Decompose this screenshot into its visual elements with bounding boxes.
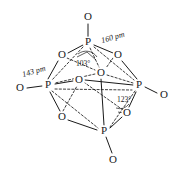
bond-dashed-p-top-to-o-center-back <box>90 48 99 67</box>
label-angle-123: 123° <box>117 95 131 104</box>
bond-o-center-back-to-p-bottom <box>101 79 104 125</box>
measurement-labels-group: 160 pm 143 pm 103° 123° <box>21 30 131 104</box>
bond-p-right-to-terminal-o <box>145 87 157 93</box>
oxygen-bridge-lower-right: O <box>123 106 131 118</box>
bond-o-lower-left-to-p-bottom <box>68 120 97 130</box>
label-bond-length-143: 143 pm <box>21 64 47 79</box>
oxygen-terminal-top: O <box>84 10 92 22</box>
oxygen-bridge-center-back: O <box>97 66 105 78</box>
oxygen-bridge-upper-right: O <box>114 48 122 60</box>
bond-o-center-left-to-p-right <box>85 80 133 85</box>
oxygen-terminal-bottom: O <box>109 153 117 165</box>
figure-container: P P P P O O O O O O O O O O 160 pm 143 p… <box>0 0 180 179</box>
bond-o-upper-left-to-p-left <box>48 61 58 79</box>
bond-dashed-o-center-back-to-p-right <box>107 75 133 83</box>
oxygen-terminal-left: O <box>16 81 24 93</box>
phosphorus-right: P <box>136 78 142 90</box>
bond-dashed-o-upper-right-to-o-center-back <box>106 58 113 68</box>
bond-p-top-to-o-upper-right <box>94 45 113 53</box>
bond-p-left-to-o-lower-left <box>50 92 60 111</box>
oxygen-bridge-lower-left: O <box>58 110 66 122</box>
label-angle-103: 103° <box>76 59 90 68</box>
label-bond-length-160: 160 pm <box>100 30 126 45</box>
phosphorus-bottom: P <box>101 124 107 136</box>
angle-tick-103-left <box>77 52 87 57</box>
bond-p-left-to-terminal-o <box>27 86 42 88</box>
molecule-diagram: P P P P O O O O O O O O O O 160 pm 143 p… <box>0 0 180 179</box>
bond-p-bottom-to-terminal-o <box>106 137 112 153</box>
bond-dashed-o-lower-left-to-o-center-left <box>63 86 77 111</box>
oxygen-bridge-center-left: O <box>75 73 83 85</box>
oxygen-bridge-upper-left: O <box>58 48 66 60</box>
phosphorus-left: P <box>45 78 51 90</box>
oxygen-terminal-right: O <box>160 88 168 100</box>
bond-p-top-to-o-upper-left <box>68 45 83 53</box>
phosphorus-top: P <box>85 35 91 47</box>
